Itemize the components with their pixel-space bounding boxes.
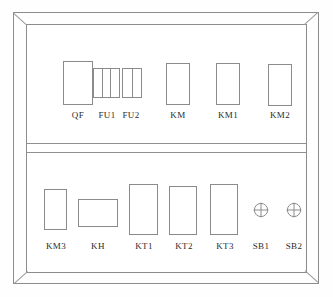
fuse-cell [123, 69, 133, 97]
component-body-km[interactable] [166, 63, 190, 105]
shelf-divider-upper-line [27, 143, 306, 144]
fuse-cell [103, 69, 112, 97]
fuse-cell [94, 69, 103, 97]
component-body-kt3[interactable] [210, 184, 238, 235]
component-label-km2: KM2 [250, 110, 310, 120]
fuse-cell [133, 69, 142, 97]
shelf-divider-lower-line [27, 152, 306, 153]
component-body-kh[interactable] [78, 199, 118, 227]
panel-diagram: QFFU1FU2KMKM1KM2KM3KHKT1KT2KT3SB1SB2 [0, 0, 333, 297]
component-body-sb1[interactable] [253, 202, 269, 218]
component-body-qf[interactable] [63, 61, 93, 105]
component-body-kt2[interactable] [169, 186, 197, 235]
component-body-km1[interactable] [216, 63, 240, 105]
component-body-sb2[interactable] [286, 202, 302, 218]
component-label-km1: KM1 [198, 110, 258, 120]
component-body-fu2[interactable] [122, 68, 142, 98]
component-label-sb2: SB2 [264, 241, 324, 251]
pushbutton-cross-icon [286, 202, 302, 218]
component-body-km2[interactable] [268, 64, 292, 106]
component-body-kt1[interactable] [129, 184, 158, 235]
fuse-cell [111, 69, 119, 97]
component-body-fu1[interactable] [93, 68, 120, 98]
pushbutton-cross-icon [253, 202, 269, 218]
component-body-km3[interactable] [44, 189, 67, 230]
